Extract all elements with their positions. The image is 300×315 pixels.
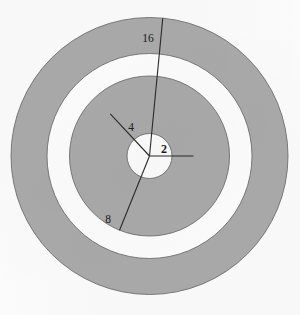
- label-16: 16: [142, 32, 154, 44]
- label-2: 2: [161, 142, 167, 156]
- label-8: 8: [105, 213, 111, 225]
- figure-container: 16 8 4 2: [0, 0, 300, 315]
- concentric-circles-diagram: 16 8 4 2: [0, 0, 300, 315]
- label-4: 4: [128, 121, 134, 133]
